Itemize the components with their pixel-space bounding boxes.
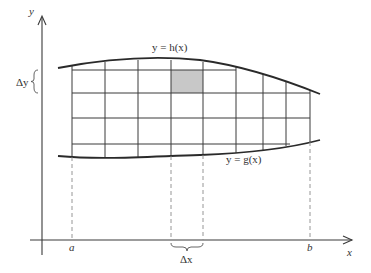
delta-x-label: Δx	[180, 253, 193, 265]
delta-y-label: Δy	[16, 76, 29, 88]
b-label: b	[307, 241, 313, 253]
diagram-canvas: y x y = h(x) y = g(x) Δy Δx a b	[0, 0, 371, 273]
a-label: a	[69, 241, 75, 253]
lower-curve-label: y = g(x)	[226, 153, 262, 166]
y-axis	[38, 16, 46, 255]
curve-g	[58, 140, 320, 158]
shaded-cell	[171, 70, 203, 93]
x-axis	[30, 236, 352, 244]
dashed-guides	[72, 142, 310, 240]
delta-x-brace	[171, 243, 203, 251]
delta-y-brace	[31, 70, 38, 93]
x-axis-label: x	[346, 246, 352, 258]
upper-curve-label: y = h(x)	[152, 41, 188, 54]
y-axis-label: y	[28, 5, 34, 17]
